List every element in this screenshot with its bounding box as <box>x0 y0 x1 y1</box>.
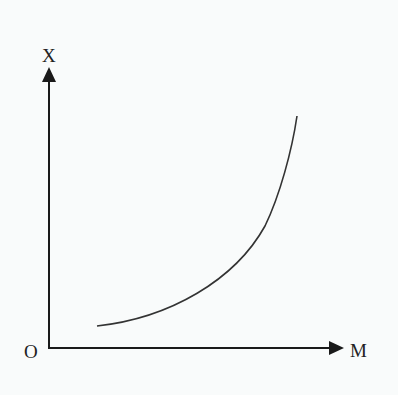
chart-figure: X O M <box>0 0 398 395</box>
y-axis-label: X <box>42 46 56 65</box>
x-axis-label: M <box>350 341 367 360</box>
curve-line <box>97 116 297 326</box>
x-axis-arrow-icon <box>329 341 344 355</box>
y-axis-arrow-icon <box>42 67 56 82</box>
origin-label: O <box>24 342 38 361</box>
chart-svg <box>0 0 398 395</box>
